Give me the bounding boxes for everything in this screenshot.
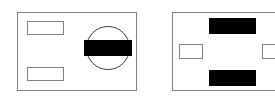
- left-panel-rect-bottom: Bottom outline rectangle: [27, 67, 64, 81]
- right-panel: Top black filled barBottom black filled …: [172, 12, 275, 91]
- left-panel: Top outline rectangleBottom outline rect…: [17, 12, 137, 91]
- right-panel-filled-bar-bottom: Bottom black filled bar: [209, 70, 256, 86]
- right-panel-filled-bar-top: Top black filled bar: [209, 18, 256, 34]
- right-panel-rect-right: Right small outline rectangle: [262, 44, 275, 59]
- left-panel-rect-top: Top outline rectangle: [27, 21, 64, 35]
- diagram-root: Top outline rectangleBottom outline rect…: [0, 0, 275, 104]
- left-panel-filled-bar: Black filled bar inside circle: [84, 40, 132, 56]
- right-panel-rect-left: Left small outline rectangle: [179, 44, 203, 59]
